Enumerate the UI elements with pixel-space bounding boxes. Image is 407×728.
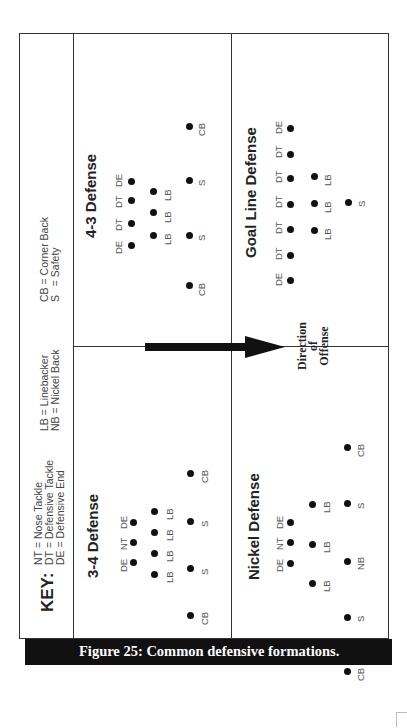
pos-label: LB	[322, 201, 333, 213]
player-dot	[345, 199, 352, 206]
player-dot	[287, 226, 294, 233]
pos-label: NT	[274, 537, 285, 550]
player-dot	[187, 612, 194, 619]
pos-label: CB	[199, 612, 210, 625]
key-entry-s: S = Safety	[50, 247, 61, 302]
pos-label: LB	[321, 580, 332, 592]
player-dot	[344, 614, 351, 621]
pos-label: LB	[162, 211, 173, 223]
direction-arrow-icon	[145, 336, 285, 358]
pos-label: DE	[273, 273, 284, 286]
pos-label: LB	[164, 529, 175, 541]
player-dot	[150, 188, 157, 195]
key-eq: =	[49, 407, 61, 413]
key-meaning: Safety	[49, 247, 61, 277]
player-dot	[151, 571, 158, 578]
player-dot	[344, 668, 351, 675]
figure-caption: Figure 25: Common defensive formations.	[79, 643, 339, 660]
player-dot	[309, 580, 316, 587]
key-divider	[73, 33, 74, 639]
player-dot	[344, 444, 351, 451]
player-dot	[128, 178, 135, 185]
pos-label: CB	[196, 283, 207, 296]
player-dot	[128, 220, 135, 227]
formation-title-goal-line: Goal Line Defense	[242, 127, 259, 258]
pos-label: DT	[273, 170, 284, 183]
player-dot	[187, 518, 194, 525]
pos-label: S	[196, 180, 207, 186]
player-dot	[287, 539, 294, 546]
key-eq: =	[54, 541, 66, 547]
pos-label: LB	[321, 541, 332, 553]
player-dot	[130, 539, 137, 546]
pos-label: NB	[355, 557, 366, 570]
pos-label: CB	[355, 444, 366, 457]
pos-label: DT	[273, 221, 284, 234]
player-dot	[128, 242, 135, 249]
formation-title-3-4: 3-4 Defense	[84, 494, 101, 578]
direction-label: Direction of Offense	[297, 311, 330, 381]
player-dot	[311, 227, 318, 234]
pos-label: S	[199, 569, 210, 575]
player-dot	[311, 173, 318, 180]
player-dot	[186, 232, 193, 239]
formation-title-4-3: 4-3 Defense	[82, 154, 99, 238]
pos-label: CB	[196, 123, 207, 136]
player-dot	[186, 177, 193, 184]
pos-label: LB	[164, 508, 175, 520]
pos-label: S	[355, 616, 366, 622]
player-dot	[151, 529, 158, 536]
player-dot	[287, 277, 294, 284]
player-dot	[309, 501, 316, 508]
pos-label: DE	[113, 174, 124, 187]
formation-title-nickel: Nickel Defense	[245, 473, 262, 580]
pos-label: LB	[164, 571, 175, 583]
key-heading: KEY:	[38, 573, 58, 612]
player-dot	[344, 500, 351, 507]
pos-label: LB	[322, 174, 333, 186]
pos-label: DE	[118, 559, 129, 572]
player-dot	[287, 201, 294, 208]
key-eq: =	[49, 280, 61, 286]
player-dot	[128, 197, 135, 204]
player-dot	[287, 151, 294, 158]
player-dot	[130, 559, 137, 566]
pos-label: DE	[273, 121, 284, 134]
key-entry-nb: NB = Nickel Back	[50, 350, 61, 431]
page-edge-mark	[396, 712, 407, 727]
player-dot	[150, 232, 157, 239]
key-abbr: DE	[54, 550, 66, 565]
pos-label: LB	[162, 233, 173, 245]
key-abbr: NB	[49, 416, 61, 431]
player-dot	[151, 508, 158, 515]
player-dot	[187, 470, 194, 477]
offense-line-stub-2	[333, 346, 389, 347]
pos-label: LB	[321, 501, 332, 513]
player-dot	[186, 123, 193, 130]
player-dot	[287, 560, 294, 567]
player-dot	[287, 175, 294, 182]
player-dot	[287, 252, 294, 259]
pos-label: S	[356, 201, 367, 207]
player-dot	[344, 558, 351, 565]
pos-label: DT	[273, 145, 284, 158]
player-dot	[287, 519, 294, 526]
player-dot	[130, 519, 137, 526]
player-dot	[287, 125, 294, 132]
player-dot	[309, 541, 316, 548]
pos-label: DE	[118, 516, 129, 529]
player-dot	[186, 282, 193, 289]
player-dot	[150, 209, 157, 216]
pos-label: LB	[322, 228, 333, 240]
pos-label: S	[199, 521, 210, 527]
pos-label: DE	[274, 559, 285, 572]
pos-label: LB	[162, 189, 173, 201]
player-dot	[311, 200, 318, 207]
pos-label: S	[355, 503, 366, 509]
key-abbr: S	[49, 295, 61, 302]
pos-label: DE	[274, 516, 285, 529]
player-dot	[151, 550, 158, 557]
direction-line-3: Offense	[319, 311, 330, 381]
pos-label: LB	[164, 550, 175, 562]
pos-label: DT	[113, 195, 124, 208]
